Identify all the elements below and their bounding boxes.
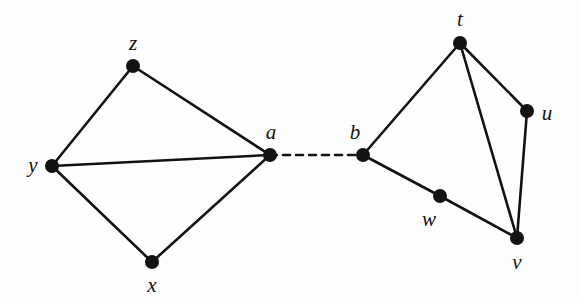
vertex-z[interactable]	[126, 59, 140, 73]
edge-y-a	[52, 155, 270, 166]
vertex-layer	[45, 36, 534, 269]
vertex-label-b: b	[350, 122, 361, 143]
edge-b-t	[363, 43, 460, 155]
vertex-a[interactable]	[263, 148, 277, 162]
edge-layer	[52, 43, 527, 262]
vertex-y[interactable]	[45, 159, 59, 173]
graph-figure: zyaxbtuwv	[0, 0, 580, 302]
edge-y-x	[52, 166, 152, 262]
vertex-label-u: u	[542, 103, 553, 124]
vertex-label-t: t	[457, 9, 463, 30]
vertex-u[interactable]	[520, 104, 534, 118]
edge-u-v	[517, 111, 527, 238]
vertex-label-v: v	[512, 252, 521, 273]
graph-canvas	[0, 0, 580, 302]
edge-y-z	[52, 66, 133, 166]
vertex-label-y: y	[28, 155, 37, 176]
vertex-w[interactable]	[433, 189, 447, 203]
vertex-label-w: w	[422, 209, 436, 230]
vertex-t[interactable]	[453, 36, 467, 50]
vertex-b[interactable]	[356, 148, 370, 162]
edge-b-w	[363, 155, 440, 196]
edge-z-a	[133, 66, 270, 155]
vertex-x[interactable]	[145, 255, 159, 269]
edge-x-a	[152, 155, 270, 262]
vertex-label-a: a	[266, 122, 277, 143]
vertex-label-x: x	[147, 275, 156, 296]
vertex-v[interactable]	[510, 231, 524, 245]
vertex-label-z: z	[129, 33, 137, 54]
